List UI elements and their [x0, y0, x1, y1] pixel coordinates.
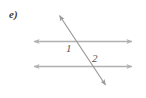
- geometry-diagram-canvas: [0, 0, 146, 98]
- geometry-figure: e) 1 2: [0, 0, 146, 98]
- angle-label-2: 2: [92, 53, 98, 64]
- angle-label-1: 1: [66, 43, 72, 54]
- part-label: e): [9, 9, 18, 20]
